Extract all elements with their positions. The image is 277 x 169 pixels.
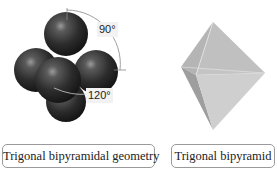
top-axial-sphere — [44, 12, 88, 56]
equatorial-sphere-front — [35, 57, 81, 103]
caption-geometry: Trigonal bipyramidal geometry — [2, 144, 155, 168]
trigonal-bipyramid-shape — [181, 22, 265, 130]
angle-label-90: 90° — [97, 22, 118, 37]
angle-label-120: 120° — [86, 88, 113, 103]
caption-polyhedron: Trigonal bipyramid — [171, 144, 275, 168]
diagram: 90° 120° Trigonal bipyramidal geometry T… — [0, 0, 277, 169]
